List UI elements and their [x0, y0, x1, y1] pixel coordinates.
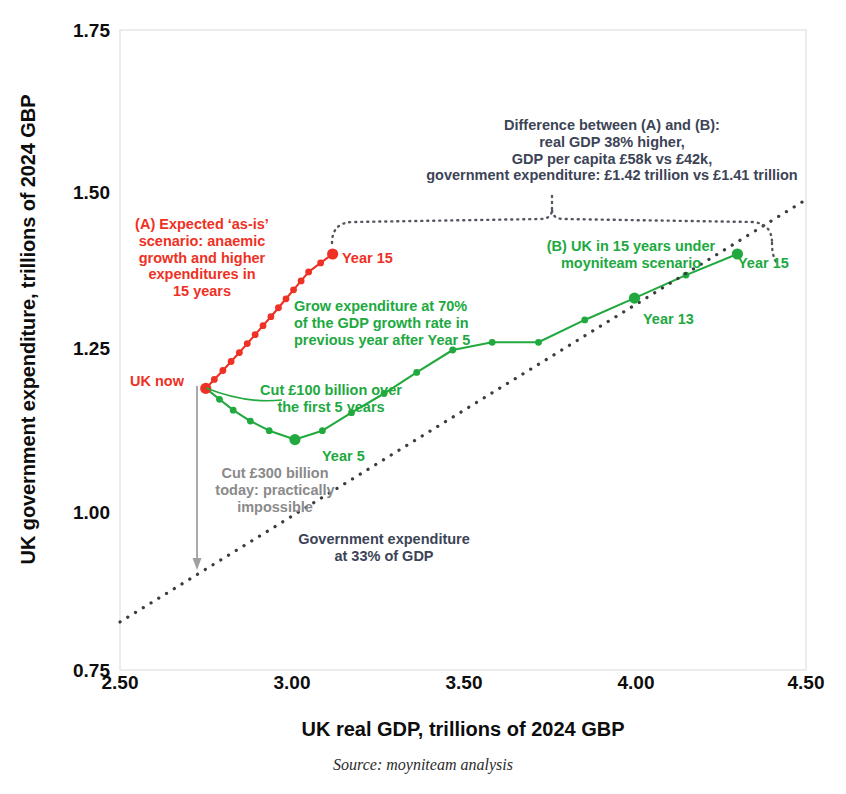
- series-point: [220, 367, 227, 374]
- chart-root: UK government expenditure, trillions of …: [0, 0, 846, 794]
- series-point: [298, 277, 305, 284]
- point-label-year-15-red: Year 15: [342, 250, 393, 267]
- series-point: [260, 322, 267, 329]
- scenario-a-line-5: 15 years: [124, 283, 280, 300]
- annotation-scenario-a: (A) Expected ‘as-is’ scenario: anaemic g…: [124, 216, 280, 300]
- x-axis-title: UK real GDP, trillions of 2024 GBP: [120, 718, 806, 741]
- grow-line-2: of the GDP growth rate in: [294, 315, 506, 332]
- series-point: [216, 396, 223, 403]
- series-point: [413, 369, 420, 376]
- point-label-uk-now: UK now: [120, 373, 184, 390]
- series-point: [268, 313, 275, 320]
- point-label-year-15-green: Year 15: [738, 255, 789, 272]
- point-label-year-5: Year 5: [322, 448, 365, 465]
- series-point: [290, 286, 297, 293]
- scenario-b-line-1: (B) UK in 15 years under: [520, 238, 742, 255]
- annotation-scenario-b: (B) UK in 15 years under moyniteam scena…: [520, 238, 742, 272]
- scenario-b-line-2: moyniteam scenario: [520, 255, 742, 272]
- brace-note-line-3: GDP per capita £58k vs £42k,: [392, 151, 832, 168]
- annotation-cut-300: Cut £300 billion today: practically impo…: [205, 465, 345, 515]
- cut100-line-2: the first 5 years: [236, 399, 426, 416]
- gov33-line-2: at 33% of GDP: [280, 548, 488, 565]
- grow-line-1: Grow expenditure at 70%: [294, 298, 506, 315]
- series-point: [581, 317, 588, 324]
- cut300-line-3: impossible: [205, 499, 345, 516]
- highlighted-point: [200, 383, 211, 394]
- series-point: [319, 427, 326, 434]
- scenario-a-line-4: expenditures in: [124, 266, 280, 283]
- source-note: Source: moyniteam analysis: [0, 756, 846, 774]
- brace-note-line-4: government expenditure: £1.42 trillion v…: [392, 167, 832, 184]
- highlighted-point: [327, 248, 338, 259]
- annotation-cut-100: Cut £100 billion over the first 5 years: [236, 382, 426, 416]
- cut300-line-2: today: practically: [205, 482, 345, 499]
- grow-line-3: previous year after Year 5: [294, 332, 506, 349]
- point-label-year-13: Year 13: [643, 311, 694, 328]
- series-point: [266, 427, 273, 434]
- annotation-brace-note: Difference between (A) and (B): real GDP…: [392, 117, 832, 184]
- highlighted-point: [289, 434, 300, 445]
- brace-note-line-1: Difference between (A) and (B):: [392, 117, 832, 134]
- series-point: [317, 260, 324, 267]
- series-point: [236, 349, 243, 356]
- series-point: [228, 358, 235, 365]
- series-point: [305, 269, 312, 276]
- series-point: [275, 304, 282, 311]
- scenario-a-line-2: scenario: anaemic: [124, 233, 280, 250]
- highlighted-point: [629, 293, 640, 304]
- annotation-gov-33: Government expenditure at 33% of GDP: [280, 531, 488, 565]
- cut100-line-1: Cut £100 billion over: [236, 382, 426, 399]
- series-point: [247, 418, 254, 425]
- series-point: [244, 340, 251, 347]
- series-point: [283, 295, 290, 302]
- annotation-grow-expenditure: Grow expenditure at 70% of the GDP growt…: [294, 298, 506, 348]
- cut300-line-1: Cut £300 billion: [205, 465, 345, 482]
- series-point: [252, 331, 259, 338]
- series-point: [211, 376, 218, 383]
- brace-note-line-2: real GDP 38% higher,: [392, 134, 832, 151]
- scenario-a-line-1: (A) Expected ‘as-is’: [124, 216, 280, 233]
- series-point: [535, 339, 542, 346]
- gov33-line-1: Government expenditure: [280, 531, 488, 548]
- scenario-a-line-3: growth and higher: [124, 250, 280, 267]
